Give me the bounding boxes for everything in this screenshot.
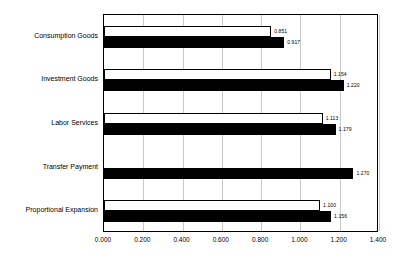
- x-tick-label: 1.400: [370, 236, 386, 244]
- gridline: [379, 15, 380, 231]
- bar-substitute: [104, 37, 284, 48]
- bar-group-item: 1.270: [104, 168, 369, 179]
- bar-group-item: 1.156: [104, 211, 347, 222]
- bar-substitute: [104, 211, 331, 222]
- bar-group-item: 1.100: [104, 200, 336, 211]
- bar-group-item: 1.154: [104, 69, 347, 80]
- bar-group-item: 1.113: [104, 113, 338, 124]
- category-label: Transfer Payment: [43, 163, 98, 171]
- bar-substitute: [104, 80, 344, 91]
- category-label: Consumption Goods: [34, 32, 98, 40]
- x-tick-label: 0.200: [134, 236, 150, 244]
- horizontal-bar-chart: 0.8510.9171.1541.2201.1131.1791.2701.100…: [0, 0, 399, 260]
- bar-value-label: 1.220: [347, 83, 360, 88]
- bar-value-label: 1.100: [323, 203, 336, 208]
- bar-value-label: 1.154: [334, 72, 347, 77]
- bar-separable: [104, 26, 271, 37]
- bar-group-item: 0.917: [104, 37, 300, 48]
- bar-value-label: 1.113: [326, 116, 339, 121]
- gridline: [340, 15, 341, 231]
- bar-group-item: 1.179: [104, 124, 352, 135]
- bar-substitute: [104, 124, 336, 135]
- bar-value-label: 1.179: [339, 127, 352, 132]
- category-label: Investment Goods: [41, 75, 98, 83]
- x-tick-label: 0.600: [213, 236, 229, 244]
- x-axis-tick-labels: 0.0000.2000.4000.6000.8001.0001.2001.400: [103, 236, 378, 248]
- bar-substitute: [104, 168, 353, 179]
- category-label: Proportional Expansion: [26, 206, 98, 214]
- bar-separable: [104, 200, 320, 211]
- bar-value-label: 1.156: [334, 214, 347, 219]
- bar-group-item: 1.220: [104, 80, 360, 91]
- bar-value-label: 0.917: [287, 40, 300, 45]
- category-label: Labor Services: [51, 119, 98, 127]
- x-tick-label: 0.000: [95, 236, 111, 244]
- x-tick-label: 1.000: [291, 236, 307, 244]
- x-tick-label: 0.400: [173, 236, 189, 244]
- bar-value-label: 1.270: [356, 171, 369, 176]
- bar-separable: [104, 113, 323, 124]
- bar-value-label: 0.851: [274, 29, 287, 34]
- x-tick-label: 0.800: [252, 236, 268, 244]
- bar-group-item: 0.851: [104, 26, 287, 37]
- plot-area: 0.8510.9171.1541.2201.1131.1791.2701.100…: [103, 14, 378, 232]
- x-tick-label: 1.200: [331, 236, 347, 244]
- bar-separable: [104, 69, 331, 80]
